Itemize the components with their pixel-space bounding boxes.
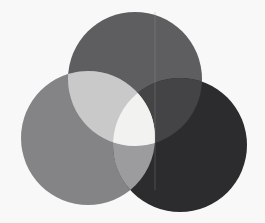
venn-diagram-figure [0, 0, 265, 223]
venn-diagram-canvas [0, 0, 265, 223]
